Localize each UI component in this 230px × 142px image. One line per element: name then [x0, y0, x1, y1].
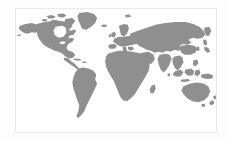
world-map-svg[interactable] — [16, 9, 216, 132]
region-tasmania — [201, 104, 205, 107]
region-sri-lanka — [168, 73, 170, 76]
region-caribbean-hispaniola — [82, 62, 86, 63]
region-ireland — [109, 34, 112, 37]
region-korea — [196, 47, 199, 51]
region-svalbard — [125, 14, 131, 17]
map-viewport[interactable] — [16, 9, 216, 132]
world-map-card: equirectangular — [15, 8, 217, 133]
app-root: equirectangular — [0, 0, 230, 142]
